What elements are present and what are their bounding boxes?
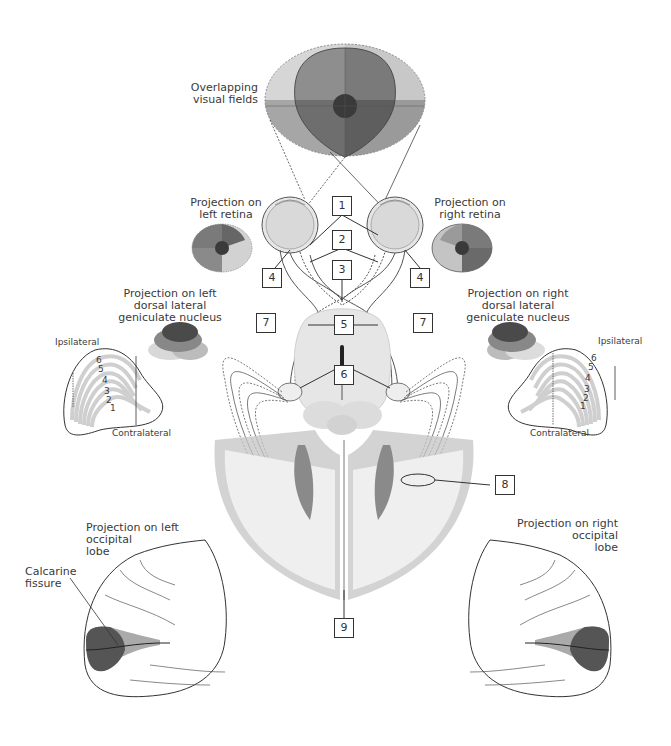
right-lgn-blob xyxy=(487,322,545,360)
left-eye xyxy=(262,197,318,253)
right-ipsilateral-label: Ipsilateral xyxy=(598,336,642,346)
left-lgn-layers xyxy=(64,349,163,435)
left-retina-label: Projection on left retina xyxy=(190,197,262,221)
left-contralateral-label: Contralateral xyxy=(112,428,171,438)
right-layer-4: 4 xyxy=(585,373,591,383)
left-layer-1: 1 xyxy=(110,403,116,413)
left-ipsilateral-label: Ipsilateral xyxy=(55,337,99,347)
left-occipital-lobe xyxy=(70,540,226,697)
left-layer-4: 4 xyxy=(102,375,108,385)
callout-3: 3 xyxy=(332,260,352,280)
right-lgn-label: Projection on right dorsal lateral genic… xyxy=(466,288,570,324)
visual-pathway-diagram: Overlapping visual fields Projection on … xyxy=(0,0,671,746)
callout-4-right: 4 xyxy=(410,268,430,288)
left-layer-5: 5 xyxy=(98,364,104,374)
callout-2: 2 xyxy=(332,230,352,250)
left-retina-projection xyxy=(192,224,252,272)
cerebral-section xyxy=(214,430,473,600)
callout-9: 9 xyxy=(334,618,354,638)
right-retina-projection xyxy=(432,224,492,272)
callout-7-right: 7 xyxy=(413,313,433,333)
overlapping-visual-fields-label: Overlapping visual fields xyxy=(191,82,258,106)
callout-4-left: 4 xyxy=(262,268,282,288)
right-layer-1: 1 xyxy=(580,401,586,411)
callout-1: 1 xyxy=(332,196,352,216)
right-layer-5: 5 xyxy=(588,362,594,372)
calcarine-fissure-label: Calcarine fissure xyxy=(25,566,77,590)
callout-5: 5 xyxy=(334,315,354,335)
overlapping-visual-fields xyxy=(260,40,430,160)
right-retina-label: Projection on right retina xyxy=(434,197,506,221)
right-eye xyxy=(367,197,423,253)
left-lgn-blob xyxy=(148,322,208,360)
left-occipital-label: Projection on left occipital lobe xyxy=(86,522,179,558)
callout-8: 8 xyxy=(495,475,515,495)
right-lgn-layers xyxy=(508,349,615,435)
callout-7-left: 7 xyxy=(256,313,276,333)
right-occipital-lobe xyxy=(469,540,611,697)
right-contralateral-label: Contralateral xyxy=(530,428,589,438)
callout-6: 6 xyxy=(334,365,354,385)
left-lgn-label: Projection on left dorsal lateral genicu… xyxy=(118,288,222,324)
right-occipital-label: Projection on right occipital lobe xyxy=(517,518,618,554)
